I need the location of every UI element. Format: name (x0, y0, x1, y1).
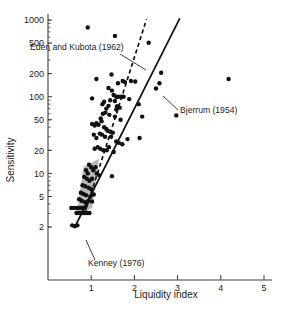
data-point (137, 102, 141, 106)
y-axis-title: Sensitivity (5, 137, 16, 182)
x-tick-label: 1 (89, 283, 94, 293)
data-point (125, 137, 129, 141)
annotation-leader-kenney (86, 240, 95, 260)
data-point (102, 100, 106, 104)
data-point (114, 139, 118, 143)
data-point (92, 192, 96, 196)
data-point (84, 193, 88, 197)
figure-container: 25102050100200500100012345 Eden and Kubo… (0, 0, 283, 318)
data-point (107, 113, 111, 117)
y-tick-label: 5 (39, 192, 44, 202)
data-point (96, 123, 100, 127)
data-point (113, 34, 117, 38)
data-point (116, 81, 120, 85)
data-point (120, 142, 124, 146)
y-tick-label: 1000 (24, 15, 44, 25)
y-tick-label: 200 (29, 69, 44, 79)
data-point (83, 205, 87, 209)
data-point (121, 94, 125, 98)
data-point (92, 146, 96, 150)
annotation-label-kenney: Kenney (1976) (88, 258, 145, 268)
data-point (94, 77, 98, 81)
x-tick-label: 4 (218, 283, 223, 293)
data-point (106, 104, 110, 108)
x-axis-title: Liquidity index (134, 289, 197, 300)
data-point (107, 145, 111, 149)
data-point (226, 77, 230, 81)
y-tick-label: 20 (34, 146, 44, 156)
annotation-leader-eden-kubota (120, 54, 146, 70)
annotation-label-bjerrum: Bjerrum (1954) (180, 105, 237, 115)
data-point (93, 165, 97, 169)
data-point (127, 97, 131, 101)
data-point (109, 72, 113, 76)
axis-group (48, 14, 272, 280)
y-tick-label: 50 (34, 115, 44, 125)
data-point (90, 177, 94, 181)
data-point (123, 80, 127, 84)
data-point (108, 98, 112, 102)
data-point (129, 79, 133, 83)
annotation-leader-bjerrum (163, 96, 178, 110)
data-point (146, 41, 150, 45)
data-point (157, 81, 161, 85)
x-tick-label: 5 (261, 283, 266, 293)
tick-label-group: 25102050100200500100012345 (24, 15, 267, 293)
data-point (140, 114, 144, 118)
data-point (86, 25, 90, 29)
y-tick-label: 100 (29, 92, 44, 102)
data-point (99, 119, 103, 123)
data-point (97, 173, 101, 177)
data-point (90, 199, 94, 203)
data-point (111, 130, 115, 134)
data-point (89, 187, 93, 191)
data-point (86, 171, 90, 175)
data-point (118, 118, 122, 122)
data-point (110, 88, 114, 92)
data-point (103, 110, 107, 114)
data-point (103, 135, 107, 139)
data-point (87, 211, 91, 215)
sensitivity-liquidity-chart: 25102050100200500100012345 Eden and Kubo… (0, 0, 283, 318)
annotation-label-eden-kubota: Eden and Kubota (1962) (30, 42, 124, 52)
data-point (109, 135, 113, 139)
data-point (111, 150, 115, 154)
y-tick-label: 10 (34, 169, 44, 179)
data-point (90, 96, 94, 100)
data-point (154, 86, 158, 90)
data-point (90, 122, 94, 126)
data-point (113, 99, 117, 103)
data-point (137, 136, 141, 140)
data-point (75, 223, 79, 227)
data-point (113, 114, 117, 118)
data-point (159, 71, 163, 75)
data-point (114, 107, 118, 111)
data-point (94, 136, 98, 140)
y-tick-label: 2 (39, 222, 44, 232)
data-point (174, 113, 178, 117)
data-point (110, 174, 114, 178)
data-point (133, 79, 137, 83)
annotation-group: Eden and Kubota (1962)Bjerrum (1954)Kenn… (30, 42, 237, 268)
data-point (106, 86, 110, 90)
